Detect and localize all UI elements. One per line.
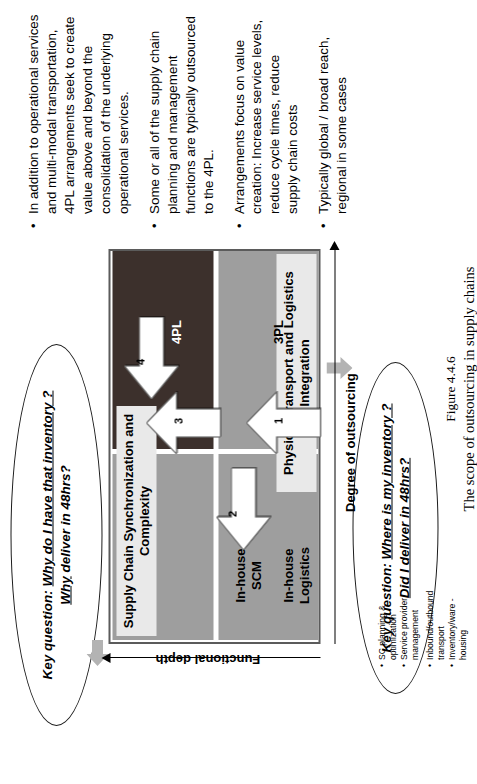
figure-caption: Figure 4.4.6 The scope of outsourcing in… (442, 144, 477, 634)
bullet-text: In addition to operational services and … (24, 14, 132, 214)
quadrant-label-in-house-logistics: In-house Logistics (280, 523, 311, 628)
figure-caption-text: The scope of outsourcing in supply chain… (460, 144, 477, 634)
list-item: • Some or all of the supply chain planni… (145, 14, 217, 228)
outsourcing-matrix: Supply Chain Synchronization and Complex… (108, 249, 320, 644)
x-axis-label: Degree of outsourcing (342, 373, 357, 512)
list-item: • SC planning & optimization (376, 589, 397, 667)
matrix-frame: Supply Chain Synchronization and Complex… (108, 249, 320, 644)
banner-physical-transport: Physical Transport and Logistics Integra… (276, 254, 316, 492)
key-question-top-line1: Why do I have that inventory ? (39, 391, 54, 587)
list-item: • In addition to operational services an… (24, 14, 132, 228)
y-axis-label: Functional depth (143, 652, 273, 667)
bullet-dot-icon: • (398, 660, 419, 667)
transition-arrow-3: 3 (146, 392, 220, 454)
key-question-bottom-line2: Did I deliver in 48hrs? (396, 458, 411, 598)
bullet-dot-icon: • (230, 214, 302, 228)
quadrant-label-3pl: 3PL (270, 302, 286, 362)
figure-rotator: Key question: Why do I have that invento… (0, 0, 477, 784)
functional-depth-axis: Functional depth (108, 648, 320, 688)
list-item: • Service provider management (398, 589, 419, 667)
key-question-top-line2-why: Why (57, 576, 72, 605)
bullet-dot-icon: • (145, 214, 217, 228)
key-question-top-prefix: Key question: (39, 590, 54, 679)
bullet-dot-icon: • (314, 214, 350, 228)
bullet-dot-icon: • (24, 214, 132, 228)
bullet-text: SC planning & optimization (376, 589, 397, 660)
bullet-text: Arrangements focus on value creation: In… (230, 14, 302, 214)
bullet-text: Service provider management (398, 589, 419, 660)
transition-arrow-2-number: 2 (226, 511, 238, 517)
bullet-list-4pl-description: • In addition to operational services an… (24, 14, 363, 228)
key-question-top-text: Key question: Why do I have that invento… (38, 391, 74, 680)
transition-arrow-4-number: 4 (134, 359, 146, 365)
bullet-dot-icon: • (424, 660, 445, 667)
transition-arrow-1-number: 1 (272, 418, 284, 424)
list-item: • Arrangements focus on value creation: … (230, 14, 302, 228)
transition-arrow-4: 4 (124, 317, 178, 399)
bullet-text: Some or all of the supply chain planning… (145, 14, 217, 214)
transition-arrow-1: 1 (246, 392, 320, 454)
y-axis-arrowhead-icon (101, 653, 110, 663)
key-question-bottom-line1: Where is my inventory ? (378, 403, 393, 559)
x-axis-line (334, 248, 335, 644)
bullet-dot-icon: • (376, 660, 397, 667)
list-item: • Typically global / broad reach, region… (314, 14, 350, 228)
transition-arrow-2: 2 (216, 468, 270, 550)
transition-arrow-3-number: 3 (172, 418, 184, 424)
figure-canvas: Key question: Why do I have that invento… (0, 0, 477, 784)
key-question-top-line2-rest: deliver in 48hrs? (57, 465, 72, 576)
bullet-list-scm-scope: • SC planning & optimization • Service p… (376, 589, 421, 667)
figure-number: Figure 4.4.6 (442, 144, 458, 634)
key-question-top-callout: Key question: Why do I have that invento… (10, 344, 102, 726)
bullet-dot-icon: • (446, 660, 467, 667)
x-axis-arrowhead-icon (329, 241, 339, 250)
bullet-text: Typically global / broad reach, regional… (314, 14, 350, 214)
